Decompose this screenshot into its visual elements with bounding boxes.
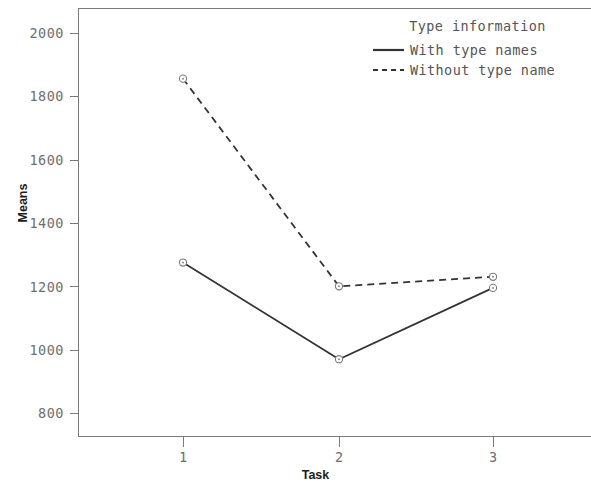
y-axis-tick	[70, 350, 79, 351]
y-axis-tick	[70, 223, 79, 224]
chart-figure: 2000 1800 1600 1400 1200 1000 800 Means …	[0, 0, 591, 489]
legend-entry-label: With type names	[410, 42, 538, 58]
y-axis-tick-label: 2000	[12, 25, 64, 41]
x-axis-tick	[183, 437, 184, 447]
y-axis-tick-label: 1600	[12, 152, 64, 168]
legend-solid-line-icon	[372, 43, 410, 57]
y-axis-tick	[70, 33, 79, 34]
y-axis-title: Means	[16, 168, 30, 238]
x-axis-tick	[339, 437, 340, 447]
legend-entry-label: Without type name	[410, 62, 555, 78]
x-axis-tick-label: 1	[163, 449, 203, 465]
legend-title: Type information	[372, 18, 587, 34]
x-axis-tick-label: 2	[319, 449, 359, 465]
y-axis-tick-label: 1200	[12, 279, 64, 295]
legend: Type information With type names Without…	[372, 18, 587, 80]
x-axis-title: Task	[0, 468, 591, 482]
legend-entry-without-type-name: Without type name	[372, 60, 587, 80]
legend-dashed-line-icon	[372, 63, 410, 77]
x-axis-tick-label: 3	[473, 449, 513, 465]
y-axis-tick	[70, 160, 79, 161]
y-axis-tick-label: 800	[12, 405, 64, 421]
y-axis-tick	[70, 286, 79, 287]
x-axis-tick	[493, 437, 494, 447]
y-axis-tick	[70, 413, 79, 414]
y-axis-tick	[70, 96, 79, 97]
y-axis-tick-label: 1800	[12, 88, 64, 104]
legend-entry-with-type-names: With type names	[372, 40, 587, 60]
y-axis-tick-label: 1000	[12, 342, 64, 358]
